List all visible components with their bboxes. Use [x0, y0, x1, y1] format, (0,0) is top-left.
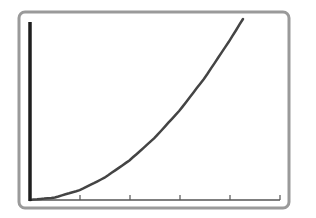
- chart: [0, 0, 316, 218]
- chart-frame: [19, 12, 289, 208]
